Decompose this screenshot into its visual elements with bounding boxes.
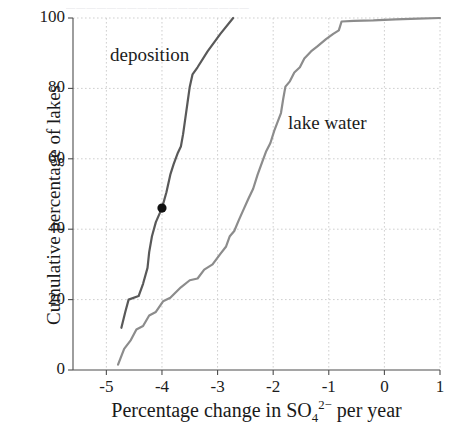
x-tick-label-1: 1 (420, 377, 453, 397)
x-axis-title: Percentage change in SO42− per year (60, 398, 453, 426)
x-axis-title-suffix: per year (332, 399, 402, 421)
x-axis-title-superscript: 2− (318, 398, 332, 412)
marker-deposition (157, 203, 166, 212)
data-point-markers (157, 203, 166, 212)
y-tick-label-0: 0 (25, 359, 65, 379)
x-axis-title-prefix: Percentage change in SO (111, 399, 311, 421)
x-tick-label--1: -1 (309, 377, 349, 397)
x-tick-label--3: -3 (198, 377, 238, 397)
axis-lines (73, 18, 440, 370)
y-tick-label-100: 100 (25, 7, 65, 27)
chart-figure: ▄▄▄▄▄▄▄▄▄▄▄▄▄▄▄▄▄▄ 020406080100 -5-4-3-2… (0, 0, 453, 436)
x-axis-title-subscript: 4 (312, 411, 318, 425)
y-axis-title: Cumulative percentage of lakes (43, 55, 65, 355)
series-label-lake-water: lake water (288, 112, 367, 134)
x-tick-label--5: -5 (86, 377, 126, 397)
x-tick-label--2: -2 (253, 377, 293, 397)
gridlines (73, 18, 440, 370)
x-tick-label-0: 0 (364, 377, 404, 397)
series-label-deposition: deposition (110, 44, 189, 66)
x-tick-label--4: -4 (142, 377, 182, 397)
data-series (118, 18, 440, 365)
chart-plot-area (0, 0, 453, 436)
